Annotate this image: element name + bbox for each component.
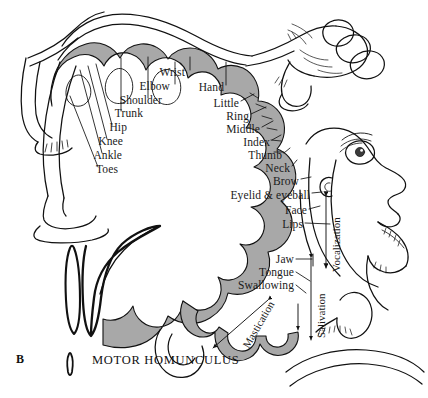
label-neck: Neck xyxy=(265,163,290,175)
scale-bar-glyph xyxy=(67,353,72,375)
label-knee: Knee xyxy=(98,136,123,148)
homunculus-illustration xyxy=(0,0,428,398)
label-toes: Toes xyxy=(96,164,118,176)
label-index: Index xyxy=(243,137,270,149)
label-wrist: Wrist xyxy=(159,67,185,79)
head-profile xyxy=(300,128,408,310)
label-brow: Brow xyxy=(273,176,299,188)
leader-lines-lower xyxy=(296,259,312,293)
label-salivation: Salivation xyxy=(315,293,327,338)
label-elbow: Elbow xyxy=(139,81,170,93)
label-ring: Ring xyxy=(226,111,249,123)
figure-caption: MOTOR HOMUNCULUS xyxy=(92,353,239,368)
label-thumb: Thumb xyxy=(248,150,282,162)
label-tongue: Tongue xyxy=(259,267,294,279)
label-hip: Hip xyxy=(109,122,127,134)
label-jaw: Jaw xyxy=(276,254,294,266)
label-vocalization: Vocalization xyxy=(330,217,342,272)
label-middle: Middle xyxy=(226,124,260,136)
label-trunk: Trunk xyxy=(115,108,143,120)
label-little: Little xyxy=(213,98,239,110)
label-lips: Lips xyxy=(282,219,303,231)
label-face: Face xyxy=(285,205,307,217)
label-swallowing: Swallowing xyxy=(238,280,294,292)
throat-structures xyxy=(286,293,424,386)
motor-homunculus-figure: Wrist Elbow Shoulder Hand Trunk Hip Knee… xyxy=(0,0,428,398)
label-ankle: Ankle xyxy=(93,150,122,162)
label-eyelid-eyeball: Eyelid & eyeball xyxy=(230,190,310,202)
panel-letter: B xyxy=(16,352,24,367)
hand-figure xyxy=(246,20,384,111)
label-shoulder: Shoulder xyxy=(120,95,162,107)
label-hand: Hand xyxy=(199,82,224,94)
